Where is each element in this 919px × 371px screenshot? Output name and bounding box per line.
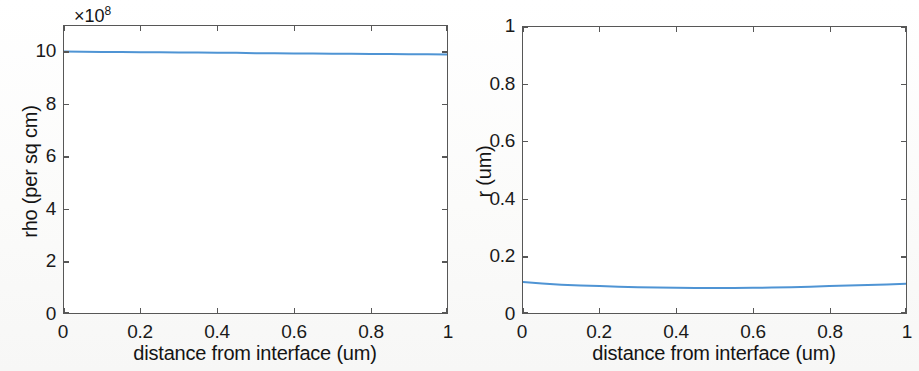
series-rho bbox=[64, 52, 447, 55]
y-axis-tick bbox=[522, 312, 528, 313]
x-axis-tick-label: 0.4 bbox=[663, 321, 689, 343]
x-axis-tick-label: 0.6 bbox=[281, 321, 307, 343]
x-axis-tick-label: 0.8 bbox=[817, 321, 843, 343]
y-axis-tick-right bbox=[901, 141, 907, 142]
x-axis-title: distance from interface (um) bbox=[592, 342, 835, 365]
y-axis-tick-right bbox=[442, 156, 448, 157]
y-axis-tick bbox=[63, 261, 69, 262]
y-axis-tick-right bbox=[901, 199, 907, 200]
x-axis-tick-label: 0.4 bbox=[204, 321, 230, 343]
x-axis-title: distance from interface (um) bbox=[133, 342, 376, 365]
plot-inner-r bbox=[523, 27, 906, 313]
y-axis-tick bbox=[63, 209, 69, 210]
plot-area-r bbox=[522, 26, 907, 314]
x-axis-tick bbox=[294, 308, 295, 314]
y-axis-tick bbox=[522, 256, 528, 257]
x-axis-tick bbox=[217, 308, 218, 314]
y-axis-tick bbox=[63, 104, 69, 105]
y-axis-tick-right bbox=[442, 104, 448, 105]
y-axis-tick bbox=[63, 156, 69, 157]
y-axis-tick-right bbox=[901, 256, 907, 257]
y-axis-tick-right bbox=[901, 84, 907, 85]
y-axis-tick-right bbox=[442, 51, 448, 52]
x-axis-tick-label: 0 bbox=[517, 321, 527, 343]
y-axis-tick-right bbox=[442, 209, 448, 210]
y-axis-tick-label: 1 bbox=[459, 15, 515, 37]
chart-panel-rho: ×108 00.20.40.60.810246810 distance from… bbox=[0, 0, 460, 371]
x-axis-tick-top bbox=[217, 25, 218, 31]
x-axis-tick bbox=[371, 308, 372, 314]
x-axis-tick-top bbox=[371, 25, 372, 31]
plot-area-rho bbox=[63, 25, 448, 314]
x-axis-tick bbox=[599, 308, 600, 314]
data-line-rho bbox=[64, 26, 447, 313]
x-axis-tick-top bbox=[753, 26, 754, 32]
x-axis-tick-top bbox=[140, 25, 141, 31]
x-axis-tick bbox=[140, 308, 141, 314]
x-axis-tick-top bbox=[64, 25, 65, 31]
x-axis-tick-top bbox=[676, 26, 677, 32]
plot-inner-rho bbox=[64, 26, 447, 313]
y-axis-tick-label: 0 bbox=[459, 303, 515, 325]
x-axis-tick bbox=[830, 308, 831, 314]
x-axis-tick-label: 0.8 bbox=[358, 321, 384, 343]
data-line-r bbox=[523, 27, 906, 313]
x-axis-tick-label: 1 bbox=[443, 321, 453, 343]
x-axis-tick-top bbox=[446, 25, 447, 31]
x-axis-tick-top bbox=[830, 26, 831, 32]
chart-panel-r: 00.20.40.60.8100.20.40.60.81 distance fr… bbox=[459, 0, 919, 371]
x-axis-tick-top bbox=[599, 26, 600, 32]
x-axis-tick bbox=[753, 308, 754, 314]
x-axis-tick-label: 0.6 bbox=[740, 321, 766, 343]
x-axis-tick-label: 0 bbox=[58, 321, 68, 343]
y-axis-title: rho (per sq cm) bbox=[19, 72, 42, 272]
y-axis-tick-right bbox=[442, 261, 448, 262]
y-axis-tick-label: 10 bbox=[0, 40, 56, 62]
x-axis-tick-top bbox=[294, 25, 295, 31]
y-axis-tick bbox=[522, 27, 528, 28]
y-axis-tick-label: 0 bbox=[0, 303, 56, 325]
y-axis-tick-right bbox=[442, 312, 448, 313]
x-axis-tick-label: 0.2 bbox=[127, 321, 153, 343]
x-axis-tick bbox=[676, 308, 677, 314]
y-axis-tick-right bbox=[901, 27, 907, 28]
y-axis-tick bbox=[522, 199, 528, 200]
y-axis-tick bbox=[63, 312, 69, 313]
y-axis-title: r (um) bbox=[473, 92, 496, 252]
x-axis-tick-label: 0.2 bbox=[586, 321, 612, 343]
y-axis-exponent-label: ×108 bbox=[74, 4, 111, 27]
y-axis-tick bbox=[63, 51, 69, 52]
series-r bbox=[523, 282, 906, 288]
y-axis-tick bbox=[522, 141, 528, 142]
y-axis-tick-right bbox=[901, 312, 907, 313]
x-axis-tick-label: 1 bbox=[902, 321, 912, 343]
y-axis-tick bbox=[522, 84, 528, 85]
